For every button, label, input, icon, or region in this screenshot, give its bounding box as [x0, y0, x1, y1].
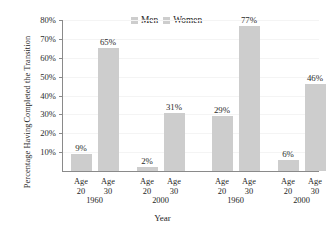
x-axis-category-label: Age20	[281, 177, 295, 197]
y-axis-tick-label: 60%	[40, 53, 56, 63]
y-axis-title-line-2: Completed the Transition	[23, 36, 33, 123]
gridline	[63, 20, 319, 21]
bar-value-label: 6%	[282, 149, 294, 159]
bar	[137, 167, 158, 171]
bar-value-label: 2%	[141, 156, 153, 166]
bar	[98, 48, 119, 171]
y-axis-tick	[59, 20, 63, 21]
x-axis-year-label: 1960	[227, 196, 244, 205]
y-axis-tick-label: 70%	[40, 34, 56, 44]
x-axis-line	[62, 171, 319, 172]
y-axis-tick	[59, 96, 63, 97]
x-axis-age-word: Age	[281, 177, 295, 187]
x-axis-age-word: Age	[242, 177, 256, 187]
x-axis-age-word: Age	[74, 177, 88, 187]
bar-value-label: 46%	[307, 73, 323, 83]
x-axis-category-label: Age30	[308, 177, 322, 197]
x-axis-category-label: Age30	[101, 177, 115, 197]
y-axis-tick	[59, 77, 63, 78]
x-axis-year-label: 2000	[152, 196, 169, 205]
x-axis-age-word: Age	[140, 177, 154, 187]
bar-value-label: 9%	[75, 143, 87, 153]
bar	[305, 84, 326, 171]
y-axis-title-line-1: Percentage Having	[23, 124, 33, 189]
y-axis-tick-label: 20%	[40, 128, 56, 138]
x-axis-category-label: Age20	[74, 177, 88, 197]
y-axis-tick-label: 80%	[40, 15, 56, 25]
y-axis-tick	[59, 58, 63, 59]
y-axis-tick	[59, 114, 63, 115]
bar	[164, 113, 185, 172]
x-axis-age-number: 30	[308, 187, 322, 197]
x-axis-year-label: 1960	[86, 196, 103, 205]
x-axis-age-number: 30	[101, 187, 115, 197]
x-axis-age-word: Age	[308, 177, 322, 187]
y-axis-tick-label: 50%	[40, 72, 56, 82]
x-axis-labels: Age20Age30Age20Age30Age20Age30Age20Age30…	[62, 175, 319, 215]
bar-value-label: 77%	[241, 15, 257, 25]
x-axis-age-number: 30	[242, 187, 256, 197]
bar-value-label: 31%	[166, 102, 182, 112]
y-axis-tick-label: 40%	[40, 91, 56, 101]
plot-area: 10%20%30%40%50%60%70%80%9%65%2%31%29%77%…	[62, 20, 319, 172]
x-axis-category-label: Age30	[167, 177, 181, 197]
x-axis-title: Year	[0, 213, 325, 223]
x-axis-year-label: 2000	[293, 196, 310, 205]
x-axis-age-word: Age	[167, 177, 181, 187]
bar-value-label: 65%	[100, 37, 116, 47]
y-axis-tick	[59, 39, 63, 40]
x-axis-age-word: Age	[101, 177, 115, 187]
x-axis-category-label: Age20	[215, 177, 229, 197]
x-axis-category-label: Age20	[140, 177, 154, 197]
bar	[71, 154, 92, 171]
bar	[239, 26, 260, 171]
x-axis-category-label: Age30	[242, 177, 256, 197]
bar	[278, 160, 299, 171]
x-axis-age-number: 30	[167, 187, 181, 197]
bar-value-label: 29%	[214, 105, 230, 115]
y-axis-tick	[59, 152, 63, 153]
y-axis-tick-label: 10%	[40, 147, 56, 157]
x-axis-age-word: Age	[215, 177, 229, 187]
y-axis-tick-label: 30%	[40, 109, 56, 119]
y-axis-tick	[59, 133, 63, 134]
bar	[212, 116, 233, 171]
